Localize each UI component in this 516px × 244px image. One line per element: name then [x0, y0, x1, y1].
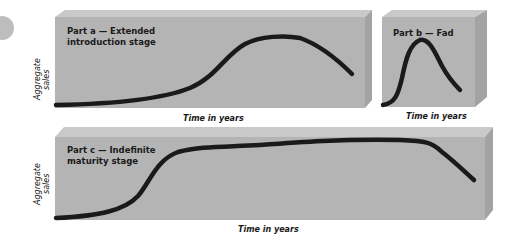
panel-a-title-line1: Part a — Extended [67, 26, 155, 36]
panel-a: Part a — Extended introduction stage Tim… [33, 10, 372, 123]
decorative-circle [0, 16, 14, 40]
panel-b-side-face [475, 10, 487, 107]
panel-c-ylabel-line1: Aggregate [33, 163, 42, 206]
panel-a-xlabel: Time in years [183, 114, 244, 123]
panel-c-top-face [55, 127, 493, 137]
panel-a-side-face [365, 10, 372, 108]
panel-b-xlabel: Time in years [406, 112, 467, 121]
panel-c-title-line2: maturity stage [67, 156, 138, 166]
panel-b-title-line1: Part b — Fad [393, 28, 454, 38]
panel-b-top-face [382, 10, 487, 17]
panel-a-title-line2: introduction stage [67, 37, 156, 47]
panel-c-xlabel: Time in years [238, 225, 299, 234]
product-life-cycle-diagram: Part a — Extended introduction stage Tim… [0, 0, 516, 244]
panel-a-top-face [55, 10, 372, 17]
panel-a-ylabel-line2: sales [42, 70, 51, 90]
panel-b: Part b — Fad Time in years [382, 10, 487, 121]
panel-c-ylabel-line2: sales [42, 174, 51, 194]
panel-c: Part c — Indefinite maturity stage Time … [33, 127, 493, 234]
panel-c-side-face [485, 127, 493, 220]
panel-a-ylabel-line1: Aggregate [33, 58, 42, 101]
panel-c-title-line1: Part c — Indefinite [67, 145, 156, 155]
